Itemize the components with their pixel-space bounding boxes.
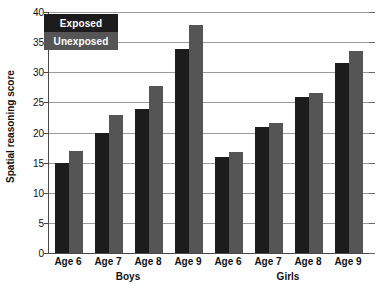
y-axis-title: Spatial reasoning score bbox=[0, 0, 20, 253]
y-axis-tick-label: 20 bbox=[22, 127, 44, 138]
y-axis-tick-right bbox=[369, 253, 375, 254]
bar-chart: Spatial reasoning score 0510152025303540… bbox=[0, 0, 378, 288]
y-axis-tick-label: 25 bbox=[22, 97, 44, 108]
x-axis-tick-label: Age 9 bbox=[174, 256, 201, 267]
bar-exposed bbox=[215, 157, 229, 253]
x-axis-group-label: Girls bbox=[277, 271, 300, 282]
x-axis-group-label: Boys bbox=[116, 271, 140, 282]
y-axis-tick-labels: 0510152025303540 bbox=[20, 12, 44, 253]
bar-unexposed bbox=[109, 115, 123, 253]
y-axis-tick-label: 0 bbox=[22, 248, 44, 259]
bar-unexposed bbox=[309, 93, 323, 253]
x-axis-tick-label: Age 6 bbox=[54, 256, 81, 267]
y-axis-tick-right bbox=[369, 193, 375, 194]
bar-unexposed bbox=[69, 151, 83, 253]
y-axis-tick-right bbox=[369, 72, 375, 73]
y-axis-tick-label: 35 bbox=[22, 37, 44, 48]
y-axis-title-text: Spatial reasoning score bbox=[5, 70, 16, 183]
x-axis-tick-label: Age 8 bbox=[134, 256, 161, 267]
x-axis-tick-label: Age 8 bbox=[294, 256, 321, 267]
bar-unexposed bbox=[149, 86, 163, 253]
y-axis-tick-right bbox=[369, 102, 375, 103]
bar-exposed bbox=[295, 97, 309, 253]
chart-legend: Exposed Unexposed bbox=[44, 14, 118, 50]
bar-unexposed bbox=[349, 51, 363, 253]
bar-exposed bbox=[335, 63, 349, 253]
y-axis-tick-label: 30 bbox=[22, 67, 44, 78]
y-axis-tick-label: 5 bbox=[22, 217, 44, 228]
bar-unexposed bbox=[189, 25, 203, 253]
bar-exposed bbox=[95, 133, 109, 253]
legend-label-unexposed: Unexposed bbox=[54, 36, 109, 47]
legend-item-unexposed: Unexposed bbox=[44, 32, 118, 50]
x-axis-tick-label: Age 7 bbox=[94, 256, 121, 267]
bar-exposed bbox=[255, 127, 269, 253]
bar-exposed bbox=[135, 109, 149, 253]
legend-label-exposed: Exposed bbox=[60, 18, 102, 29]
bar-exposed bbox=[175, 49, 189, 253]
x-axis-tick-label: Age 6 bbox=[214, 256, 241, 267]
x-axis-tick-label: Age 9 bbox=[334, 256, 361, 267]
legend-item-exposed: Exposed bbox=[44, 14, 118, 32]
bar-exposed bbox=[55, 163, 69, 253]
y-axis-tick-label: 40 bbox=[22, 7, 44, 18]
y-axis-tick-right bbox=[369, 12, 375, 13]
x-axis-tick-labels: Age 6Age 7Age 8Age 9Age 6Age 7Age 8Age 9 bbox=[48, 256, 368, 270]
x-axis-tick-label: Age 7 bbox=[254, 256, 281, 267]
y-axis-tick-label: 10 bbox=[22, 187, 44, 198]
y-axis-tick-right bbox=[369, 42, 375, 43]
y-axis-tick-right bbox=[369, 163, 375, 164]
y-axis-tick-right bbox=[369, 133, 375, 134]
x-axis-group-labels: BoysGirls bbox=[48, 271, 368, 285]
bar-unexposed bbox=[229, 152, 243, 253]
y-axis-tick-right bbox=[369, 223, 375, 224]
y-axis-tick bbox=[44, 253, 49, 254]
bar-unexposed bbox=[269, 123, 283, 253]
y-axis-tick-label: 15 bbox=[22, 157, 44, 168]
